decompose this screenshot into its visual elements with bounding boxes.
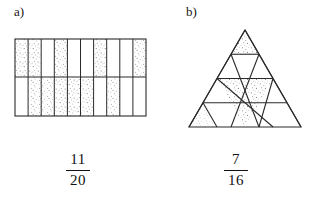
- fraction-a-numerator: 11: [48, 152, 108, 169]
- fraction-a-denominator: 20: [48, 172, 108, 189]
- fraction-a: 11 20: [48, 152, 108, 188]
- fraction-b-bar: [224, 170, 248, 171]
- fraction-a-bar: [66, 170, 90, 171]
- fraction-b-denominator: 16: [206, 172, 266, 189]
- part-b-label: b): [186, 4, 197, 20]
- rectangle-grid-figure: [14, 38, 147, 118]
- part-a-panel: a): [0, 0, 160, 204]
- fraction-b: 7 16: [206, 152, 266, 188]
- worksheet-page: a): [0, 0, 317, 204]
- part-b-panel: b): [160, 0, 317, 204]
- triangle-grid-svg: [187, 28, 303, 129]
- part-a-label: a): [14, 4, 24, 20]
- shaded-triangle-apex: [231, 30, 259, 54]
- shaded-triangle-bottom-left: [189, 103, 217, 127]
- rectangle-grid-svg: [14, 38, 147, 118]
- fraction-b-numerator: 7: [206, 152, 266, 169]
- triangle-grid-figure: [187, 28, 303, 129]
